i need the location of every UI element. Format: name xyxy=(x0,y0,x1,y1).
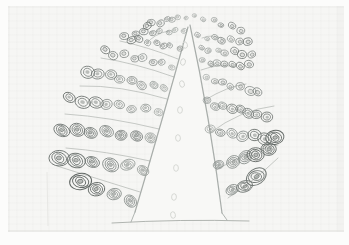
cell xyxy=(228,60,237,68)
cell xyxy=(113,99,126,110)
cell xyxy=(204,47,212,54)
cell xyxy=(154,108,164,117)
cell xyxy=(163,16,170,23)
cell xyxy=(243,37,253,46)
cell xyxy=(237,50,248,60)
cell xyxy=(120,33,129,40)
cell xyxy=(119,157,137,172)
cell xyxy=(98,123,116,139)
cell xyxy=(204,36,210,41)
cell xyxy=(235,61,246,71)
cell xyxy=(87,181,106,198)
cell xyxy=(220,61,228,68)
cell xyxy=(235,37,244,45)
cell xyxy=(236,27,245,35)
cell xyxy=(115,130,128,141)
cell xyxy=(168,64,176,70)
cell xyxy=(68,121,87,138)
cell xyxy=(236,148,255,167)
cell xyxy=(211,17,217,22)
cell xyxy=(68,171,92,191)
cell xyxy=(217,101,227,110)
cell xyxy=(49,150,70,166)
cell xyxy=(247,129,261,142)
cell xyxy=(129,129,144,143)
cell xyxy=(83,126,99,140)
cell xyxy=(244,59,255,69)
cell xyxy=(192,14,197,18)
cell xyxy=(244,85,257,97)
cell xyxy=(261,112,273,122)
cell xyxy=(157,58,166,66)
cell xyxy=(143,39,152,47)
cell xyxy=(99,44,111,55)
cell xyxy=(166,30,172,35)
cell xyxy=(105,70,116,80)
cell xyxy=(175,15,181,20)
cell xyxy=(100,155,121,174)
cell xyxy=(149,59,157,66)
cell xyxy=(229,46,239,56)
sketch-svg xyxy=(0,0,349,245)
cell xyxy=(218,79,226,86)
cell xyxy=(227,21,237,30)
cell xyxy=(131,55,139,62)
cell xyxy=(149,80,159,90)
cell xyxy=(264,129,285,147)
cell xyxy=(215,128,226,137)
branch-line xyxy=(66,148,150,161)
cell xyxy=(52,122,72,140)
cell xyxy=(141,104,152,112)
cell xyxy=(198,44,205,50)
cell xyxy=(200,16,207,23)
cell xyxy=(211,78,219,84)
sketch-photo xyxy=(0,0,349,245)
cell xyxy=(119,49,129,58)
cell xyxy=(127,76,138,85)
cell xyxy=(84,155,101,170)
cell xyxy=(226,82,236,92)
cell xyxy=(183,16,188,21)
cell xyxy=(114,75,125,83)
cell xyxy=(247,50,257,59)
cell xyxy=(139,28,148,35)
cell xyxy=(203,74,210,81)
cell xyxy=(247,148,264,162)
cell xyxy=(226,103,239,115)
cell xyxy=(236,82,245,90)
cell xyxy=(159,83,169,93)
cell xyxy=(194,31,202,38)
cell xyxy=(91,68,105,79)
cell xyxy=(126,105,136,113)
cell xyxy=(156,27,164,34)
cell xyxy=(199,58,205,63)
cell xyxy=(106,187,122,201)
cell xyxy=(218,22,225,28)
cell xyxy=(226,35,235,44)
